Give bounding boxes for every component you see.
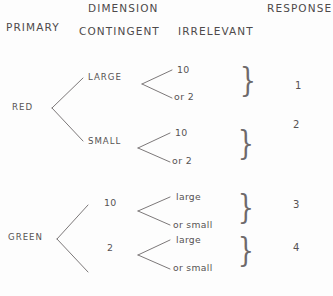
node-contingent-ten: 10 <box>104 198 117 207</box>
line-two-to-large <box>138 240 170 255</box>
brace-row3: } <box>238 189 254 223</box>
node-irrelevant-row3-bottom: or small <box>173 220 213 229</box>
line-large-to-two <box>142 84 172 98</box>
line-small-to-two <box>138 148 170 162</box>
brace-row4: } <box>238 232 254 266</box>
response-value-1: 1 <box>295 81 302 91</box>
line-small-to-ten <box>138 133 170 148</box>
brace-row2: } <box>238 125 254 159</box>
node-irrelevant-row1-bottom: or 2 <box>174 92 194 101</box>
line-green-to-ten <box>57 205 88 239</box>
node-irrelevant-row2-bottom: or 2 <box>172 156 192 165</box>
response-value-4: 4 <box>293 243 300 253</box>
line-large-to-ten <box>142 70 172 84</box>
header-dimension: DIMENSION <box>88 3 159 14</box>
header-primary: PRIMARY <box>6 22 60 33</box>
response-value-3: 3 <box>293 200 300 210</box>
node-irrelevant-row3-top: large <box>176 192 201 201</box>
tree-connector-lines <box>0 0 333 296</box>
line-ten-to-large <box>138 197 170 211</box>
line-red-to-large <box>52 78 83 108</box>
response-value-2: 2 <box>293 120 300 130</box>
node-contingent-two: 2 <box>107 243 113 252</box>
header-irrelevant: IRRELEVANT <box>178 26 254 37</box>
node-primary-green: GREEN <box>8 233 43 242</box>
line-ten-to-small <box>138 211 170 225</box>
header-contingent: CONTINGENT <box>79 26 160 37</box>
node-irrelevant-row4-top: large <box>176 235 201 244</box>
line-red-to-small <box>52 108 83 141</box>
node-contingent-small: SMALL <box>88 137 121 146</box>
node-contingent-large: LARGE <box>88 73 122 82</box>
node-irrelevant-row4-bottom: or small <box>173 263 213 272</box>
line-two-to-small <box>138 255 170 269</box>
node-irrelevant-row1-top: 10 <box>177 65 190 74</box>
node-primary-red: RED <box>12 103 33 112</box>
brace-row1: } <box>240 62 256 96</box>
header-response: RESPONSE <box>267 3 332 14</box>
line-green-to-two <box>57 239 88 272</box>
node-irrelevant-row2-top: 10 <box>175 128 188 137</box>
diagram-canvas: DIMENSION PRIMARY CONTINGENT IRRELEVANT … <box>0 0 333 296</box>
